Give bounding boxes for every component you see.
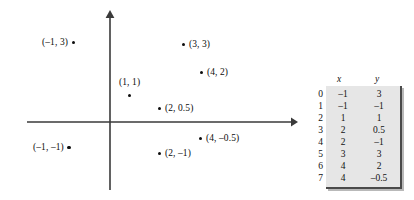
table-row: 4 2 –1 [326,136,400,148]
data-point-4-marker [158,152,161,155]
data-point-0: (–1, 3) [42,38,75,48]
table-cell-y: –0.5 [364,172,394,184]
table-cell-x: –1 [332,88,354,100]
table-row: 6 4 2 [326,160,400,172]
table-row-index: 0 [313,88,323,100]
table-header-y: y [375,74,379,84]
table-row-index: 5 [313,148,323,160]
x-axis-arrowhead [291,118,298,127]
data-point-6: (4, 2) [200,68,228,78]
table-cell-y: 1 [364,112,394,124]
table-header-row: x y [312,74,410,85]
data-point-1: (–1, –1) [33,143,71,153]
table-row-index: 2 [313,112,323,124]
table-row-index: 4 [313,136,323,148]
data-point-4-label: (2, –1) [165,148,191,158]
data-point-6-marker [200,71,203,74]
table-row: 7 4 –0.5 [326,172,400,184]
data-point-5: (3, 3) [182,40,210,50]
table-row-index: 6 [313,160,323,172]
data-point-6-label: (4, 2) [207,67,228,77]
data-point-2-label: (1, 1) [119,78,140,88]
data-point-0-marker [72,41,75,44]
table-cell-x: –1 [332,100,354,112]
table-cell-x: 1 [332,112,354,124]
table-cell-x: 2 [332,136,354,148]
table-cell-x: 2 [332,124,354,136]
table-cell-y: 0.5 [364,124,394,136]
coordinate-axes [0,0,300,200]
table-cell-y: –1 [364,136,394,148]
data-point-5-label: (3, 3) [189,39,210,49]
table-row-index: 3 [313,124,323,136]
data-point-3-label: (2, 0.5) [165,103,194,113]
table-row: 1 –1 –1 [326,100,400,112]
table-cell-x: 3 [332,148,354,160]
data-point-2: (1, 1) [119,78,140,98]
table-row: 5 3 3 [326,148,400,160]
data-point-7: (4, –0.5) [199,134,239,144]
data-point-5-marker [182,43,185,46]
table-row-index: 1 [313,100,323,112]
data-point-3-marker [158,107,161,110]
y-axis-arrowhead [106,10,115,18]
table-cell-y: –1 [364,100,394,112]
table-cell-x: 4 [332,172,354,184]
data-point-1-label: (–1, –1) [33,142,64,152]
table-body: 0 –1 3 1 –1 –1 2 1 1 3 2 0.5 4 2 [326,86,402,189]
table-row: 2 1 1 [326,112,400,124]
data-table: x y 0 –1 3 1 –1 –1 2 1 1 3 2 0.5 [312,74,410,189]
scatter-plot: (–1, 3) (3, 3) (4, 2) (1, 1) (2, 0.5) (4… [0,0,300,200]
table-cell-x: 4 [332,160,354,172]
data-point-0-label: (–1, 3) [42,37,68,47]
table-row-index: 7 [313,172,323,184]
table-header-x: x [337,74,341,84]
data-point-2-marker [128,94,131,97]
data-point-3: (2, 0.5) [158,104,193,114]
data-point-1-marker [67,146,70,149]
table-row: 3 2 0.5 [326,124,400,136]
data-point-7-label: (4, –0.5) [206,133,239,143]
table-cell-y: 3 [364,88,394,100]
data-point-4: (2, –1) [158,149,191,159]
figure-root: (–1, 3) (3, 3) (4, 2) (1, 1) (2, 0.5) (4… [0,0,414,200]
table-cell-y: 3 [364,148,394,160]
table-row: 0 –1 3 [326,88,400,100]
data-point-7-marker [199,137,202,140]
table-cell-y: 2 [364,160,394,172]
